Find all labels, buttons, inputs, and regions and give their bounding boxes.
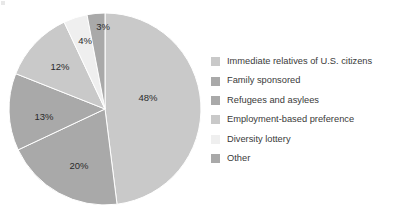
pie-plot-area: 48%20%13%12%4%3%	[0, 0, 215, 218]
legend-item-label: Refugees and asylees	[227, 96, 319, 105]
legend-swatch-icon	[211, 154, 220, 163]
legend-item-label: Other	[227, 154, 250, 163]
legend-swatch-icon	[211, 77, 220, 86]
legend-item[interactable]: Family sponsored	[211, 71, 395, 90]
legend-swatch-icon	[211, 135, 220, 144]
legend-item[interactable]: Other	[211, 149, 395, 168]
pie-slice-label: 20%	[69, 160, 89, 171]
legend-item[interactable]: Employment-based preference	[211, 110, 395, 129]
pie-svg: 48%20%13%12%4%3%	[0, 0, 215, 218]
legend-item[interactable]: Immediate relatives of U.S. citizens	[211, 52, 395, 71]
pie-slice-label: 48%	[138, 92, 158, 103]
legend-item[interactable]: Refugees and asylees	[211, 91, 395, 110]
chart-legend: Immediate relatives of U.S. citizensFami…	[211, 52, 395, 168]
pie-slice-group	[9, 13, 201, 205]
legend-item-label: Family sponsored	[227, 76, 300, 85]
legend-item-label: Employment-based preference	[227, 115, 354, 124]
legend-swatch-icon	[211, 115, 220, 124]
legend-item-label: Immediate relatives of U.S. citizens	[227, 57, 372, 66]
pie-chart-figure: 48%20%13%12%4%3% Immediate relatives of …	[0, 0, 395, 218]
pie-slice[interactable]	[105, 13, 201, 204]
legend-item-label: Diversity lottery	[227, 135, 291, 144]
pie-slice-label: 3%	[96, 21, 110, 32]
legend-swatch-icon	[211, 57, 220, 66]
pie-slice-label: 13%	[34, 111, 54, 122]
legend-swatch-icon	[211, 96, 220, 105]
pie-slice-label: 4%	[78, 35, 92, 46]
legend-item[interactable]: Diversity lottery	[211, 130, 395, 149]
pie-slice-label: 12%	[50, 61, 70, 72]
